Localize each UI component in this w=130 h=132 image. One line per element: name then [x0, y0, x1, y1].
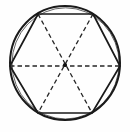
geometry-figure-hexagon-in-circle [0, 0, 130, 132]
figure-container [0, 0, 130, 132]
center-point [63, 63, 67, 67]
